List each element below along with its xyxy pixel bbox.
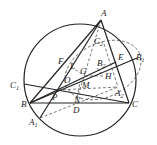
point-label-C1: C1 (10, 80, 19, 91)
point-label-A2: A2 (114, 88, 124, 99)
point-label-F: F (57, 56, 64, 66)
point-label-A1: A1 (28, 117, 38, 128)
point-label-G: G (80, 66, 87, 76)
point-label-C: C (132, 99, 139, 109)
point-label-B2: B2 (97, 58, 106, 69)
point-label-N: N (73, 95, 81, 105)
point-label-B1: B1 (136, 52, 145, 63)
point-label-M: M (81, 80, 90, 90)
geometry-diagram: ABCDEFGHOMNPLA1B1C1A2B2C2 (0, 0, 157, 145)
point-label-C2: C2 (94, 36, 103, 47)
segment-A-B (30, 20, 101, 103)
point-label-O: O (64, 75, 71, 85)
point-label-B: B (21, 99, 27, 109)
point-label-L: L (69, 61, 75, 71)
point-label-E: E (117, 52, 124, 62)
point-label-D: D (72, 105, 80, 115)
point-label-A: A (100, 8, 107, 18)
point-label-P: P (51, 92, 58, 102)
point-label-H: H (104, 71, 112, 81)
